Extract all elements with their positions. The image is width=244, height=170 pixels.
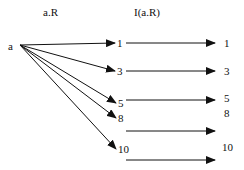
fan-arrow <box>20 45 115 71</box>
fan-arrow <box>20 45 116 118</box>
fan-arrows <box>20 43 116 149</box>
image-label: 1 <box>224 37 230 49</box>
right-arrows <box>126 43 215 160</box>
fan-arrow <box>20 43 115 45</box>
middle-node-label: 3 <box>117 65 123 77</box>
fan-arrow <box>20 45 116 149</box>
image-label: 8 <box>224 107 230 119</box>
middle-node-label: 5 <box>118 97 124 109</box>
fan-arrow <box>20 45 116 103</box>
middle-node-label: 1 <box>117 37 123 49</box>
image-label: 5 <box>224 92 230 104</box>
middle-node-label: 8 <box>118 112 124 124</box>
image-label: 3 <box>224 65 230 77</box>
middle-node-label: 10 <box>118 143 129 155</box>
image-label: 10 <box>222 141 233 153</box>
